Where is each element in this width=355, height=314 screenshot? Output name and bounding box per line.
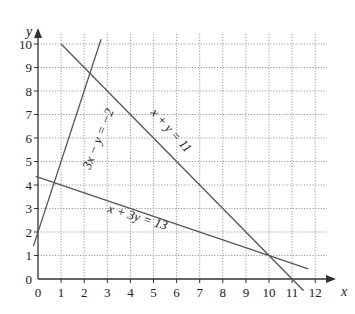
x-tick-label: 9 — [243, 285, 250, 300]
x-tick-label: 1 — [58, 285, 65, 300]
y-tick-label: 0 — [26, 272, 33, 287]
y-tick-label: 9 — [26, 60, 33, 75]
equation-label-2: x + y = 11 — [147, 104, 195, 155]
series-line-3 — [36, 176, 309, 269]
x-tick-label: 3 — [104, 285, 111, 300]
y-axis-arrow-icon — [34, 28, 42, 38]
series-lines — [33, 39, 308, 290]
y-tick-label: 6 — [26, 131, 33, 146]
y-tick-label: 4 — [26, 178, 33, 193]
chart: 0123456789101112 012345678910 x y 3x − y… — [0, 0, 355, 314]
y-tick-label: 2 — [26, 225, 33, 240]
x-axis-label: x — [340, 284, 348, 299]
equation-label-3: x + 3y = 13 — [105, 200, 170, 233]
y-tick-label: 8 — [26, 84, 33, 99]
y-tick-label: 7 — [26, 107, 33, 122]
x-tick-label: 12 — [309, 285, 322, 300]
x-tick-label: 4 — [127, 285, 134, 300]
x-tick-label: 0 — [35, 285, 42, 300]
x-axis-arrow-icon — [326, 275, 336, 283]
x-tick-label: 11 — [286, 285, 299, 300]
series-line-2 — [61, 44, 304, 291]
x-tick-labels: 0123456789101112 — [35, 279, 322, 300]
y-tick-label: 1 — [26, 248, 33, 263]
y-axis-label: y — [24, 24, 33, 39]
x-tick-label: 2 — [81, 285, 88, 300]
x-tick-label: 8 — [220, 285, 227, 300]
y-tick-label: 5 — [26, 154, 33, 169]
x-tick-label: 6 — [173, 285, 180, 300]
x-tick-label: 7 — [196, 285, 203, 300]
y-tick-labels: 012345678910 — [19, 37, 38, 287]
x-tick-label: 10 — [263, 285, 276, 300]
axes — [34, 28, 336, 283]
x-tick-label: 5 — [150, 285, 157, 300]
y-tick-label: 3 — [26, 201, 33, 216]
grid — [38, 32, 327, 279]
